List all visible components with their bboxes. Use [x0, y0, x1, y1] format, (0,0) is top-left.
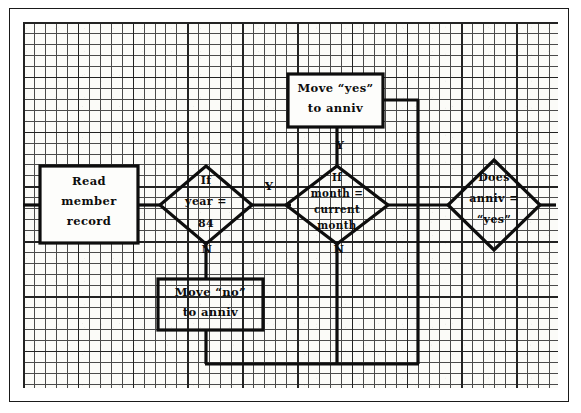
branch-label-month-yes: Y [323, 139, 357, 153]
process-read-member-record-label: Read [40, 175, 138, 189]
process-read-member-record-label-2: member [40, 195, 138, 209]
decision-if-year-84-label-2: year = [160, 196, 252, 209]
branch-label-year-no: N [190, 243, 224, 257]
decision-if-month-label-3: current [286, 204, 388, 215]
process-move-yes-to-anniv-label-2: to anniv [288, 102, 383, 116]
process-move-no-to-anniv-label-2: to anniv [158, 306, 263, 320]
process-move-yes-to-anniv-label: Move “yes” [288, 82, 383, 96]
process-move-no-to-anniv-label: Move “no” [158, 286, 263, 300]
decision-does-anniv-label: Does [448, 172, 540, 185]
branch-label-month-no: N [322, 243, 356, 257]
flowchart-screenshot: Read member record Move “yes” to anniv M… [0, 0, 581, 413]
decision-if-year-84-label-3: 84 [160, 218, 252, 231]
decision-does-anniv-label-3: “yes” [448, 214, 540, 227]
process-read-member-record-label-3: record [40, 215, 138, 229]
decision-does-anniv-label-2: anniv = [448, 193, 540, 206]
decision-if-month-label-2: month = [286, 188, 388, 199]
decision-if-month-label: If [286, 172, 388, 183]
decision-if-month-label-4: month [286, 220, 388, 231]
branch-label-year-yes: Y [252, 180, 286, 194]
decision-if-year-84-label: If [160, 175, 252, 188]
